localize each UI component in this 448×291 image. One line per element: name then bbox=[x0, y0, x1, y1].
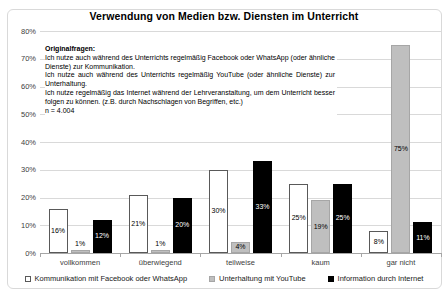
annotation-heading: Originalfragen: bbox=[45, 45, 335, 54]
gridline bbox=[40, 198, 441, 199]
x-axis-tick bbox=[441, 253, 442, 257]
legend-swatch-icon bbox=[209, 276, 215, 282]
x-axis-tick bbox=[281, 253, 282, 257]
annotation-question: Ich nutze regelmäßig das Internet währen… bbox=[45, 89, 335, 107]
annotation-question: Ich nutze auch während des Unterrichts r… bbox=[45, 71, 335, 89]
bar-data-label: 8% bbox=[374, 238, 384, 245]
gridline bbox=[40, 170, 441, 171]
x-axis-category-label: gar nicht bbox=[361, 258, 441, 267]
legend-label: Information durch Internet bbox=[338, 274, 424, 283]
y-axis-tick-label: 20% bbox=[4, 193, 36, 202]
bar-data-label: 19% bbox=[314, 223, 328, 230]
y-axis-tick-label: 40% bbox=[4, 138, 36, 147]
y-axis-tick-label: 0% bbox=[4, 249, 36, 258]
x-axis-category-label: teilweise bbox=[200, 258, 280, 267]
bar-data-label: 4% bbox=[235, 243, 245, 250]
x-axis-tick bbox=[200, 253, 201, 257]
bar-data-label: 1% bbox=[75, 240, 85, 247]
annotation-questions: Ich nutze auch während des Unterrichts r… bbox=[45, 54, 335, 107]
legend-label: Unterhaltung mit YouTube bbox=[219, 274, 305, 283]
bar-data-label: 1% bbox=[155, 240, 165, 247]
bar-data-label: 20% bbox=[175, 221, 189, 228]
gridline bbox=[40, 142, 441, 143]
y-axis-tick-label: 50% bbox=[4, 110, 36, 119]
bar bbox=[151, 250, 170, 253]
x-axis-tick bbox=[361, 253, 362, 257]
y-axis-tick-label: 70% bbox=[4, 54, 36, 63]
x-axis-tick bbox=[120, 253, 121, 257]
y-axis-tick-label: 30% bbox=[4, 165, 36, 174]
annotation-question: Ich nutze auch während des Unterrichts r… bbox=[45, 54, 335, 72]
x-axis-tick bbox=[40, 253, 41, 257]
legend-item: Unterhaltung mit YouTube bbox=[209, 274, 305, 283]
bar-data-label: 25% bbox=[292, 214, 306, 221]
bar-data-label: 12% bbox=[95, 232, 109, 239]
legend-swatch-icon bbox=[328, 276, 334, 282]
y-axis-tick-label: 80% bbox=[4, 27, 36, 36]
chart-screenshot: Verwendung von Medien bzw. Diensten im U… bbox=[0, 0, 448, 291]
gridline bbox=[40, 31, 441, 32]
annotation-sample-size: n = 4.004 bbox=[45, 107, 335, 116]
x-axis-category-label: vollkommen bbox=[40, 258, 120, 267]
bar-data-label: 16% bbox=[51, 227, 65, 234]
legend-item: Kommunikation mit Facebook oder WhatsApp bbox=[25, 274, 188, 283]
x-axis-category-label: überwiegend bbox=[120, 258, 200, 267]
x-axis-line bbox=[40, 253, 441, 254]
bar-data-label: 75% bbox=[394, 145, 408, 152]
x-axis-category-label: kaum bbox=[281, 258, 361, 267]
y-axis-tick-label: 10% bbox=[4, 221, 36, 230]
legend: Kommunikation mit Facebook oder WhatsApp… bbox=[0, 272, 448, 285]
bar-data-label: 25% bbox=[336, 214, 350, 221]
y-axis-tick-label: 60% bbox=[4, 82, 36, 91]
bar-data-label: 11% bbox=[416, 234, 430, 241]
bar-data-label: 30% bbox=[211, 207, 225, 214]
bar-data-label: 33% bbox=[255, 203, 269, 210]
bar-data-label: 21% bbox=[131, 220, 145, 227]
annotation-box: Originalfragen: Ich nutze auch während d… bbox=[45, 44, 337, 118]
legend-label: Kommunikation mit Facebook oder WhatsApp bbox=[35, 274, 188, 283]
legend-item: Information durch Internet bbox=[328, 274, 424, 283]
legend-swatch-icon bbox=[25, 276, 31, 282]
bar bbox=[71, 250, 90, 253]
